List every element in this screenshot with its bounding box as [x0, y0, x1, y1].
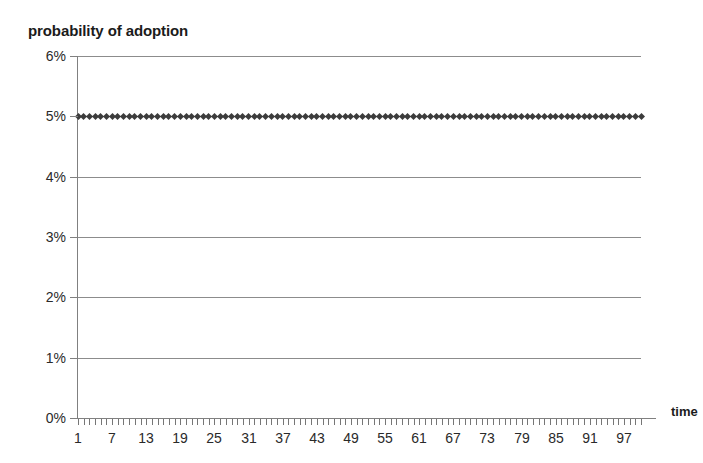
x-axis-tick — [379, 419, 380, 425]
y-axis-label-2%: 2% — [26, 290, 66, 304]
x-axis-tick — [618, 419, 619, 425]
x-axis-tick — [567, 419, 568, 425]
x-axis-tick — [232, 419, 233, 425]
x-axis-tick — [106, 419, 107, 425]
x-axis-tick — [584, 419, 585, 425]
x-axis-tick — [641, 419, 642, 425]
x-axis-tick — [323, 419, 324, 425]
x-axis-tick — [493, 419, 494, 425]
x-axis-tick — [470, 419, 471, 425]
x-axis-tick — [465, 419, 466, 425]
x-axis-tick — [112, 419, 113, 425]
x-axis-tick — [220, 419, 221, 425]
x-axis-tick — [305, 419, 306, 425]
x-axis-title: time — [671, 404, 698, 419]
y-axis-tick-5% — [70, 116, 78, 117]
y-axis-tick-6% — [70, 56, 78, 57]
x-axis-tick — [596, 419, 597, 425]
x-axis-tick — [431, 419, 432, 425]
plot-area — [78, 56, 641, 418]
x-axis-tick — [499, 419, 500, 425]
x-axis-tick — [510, 419, 511, 425]
x-axis-tick — [317, 419, 318, 425]
x-axis-tick — [237, 419, 238, 425]
x-axis-tick — [396, 419, 397, 425]
x-axis-tick — [271, 419, 272, 425]
x-axis-tick — [249, 419, 250, 425]
x-axis-tick — [453, 419, 454, 425]
x-axis-tick — [482, 419, 483, 425]
x-axis-tick — [556, 419, 557, 425]
x-axis-tick — [635, 419, 636, 425]
x-axis-tick — [129, 419, 130, 425]
y-axis-tick-4% — [70, 177, 78, 178]
x-axis-tick — [476, 419, 477, 425]
x-axis-tick — [277, 419, 278, 425]
x-axis-ticks — [78, 419, 656, 426]
x-axis-tick — [78, 419, 79, 425]
x-axis-label-49: 49 — [334, 430, 368, 446]
x-axis-tick — [442, 419, 443, 425]
x-axis-tick — [186, 419, 187, 425]
data-series-layer — [78, 56, 641, 418]
y-axis-label-4%: 4% — [26, 170, 66, 184]
x-axis-tick-labels: 17131925313743495561677379859197 — [0, 430, 703, 452]
x-axis-tick — [84, 419, 85, 425]
x-axis-tick — [539, 419, 540, 425]
x-axis-tick — [522, 419, 523, 425]
x-axis-tick — [527, 419, 528, 425]
chart-container: probability of adoption 0%1%2%3%4%5%6% 1… — [0, 0, 703, 463]
x-axis-tick — [505, 419, 506, 425]
x-axis-tick — [118, 419, 119, 425]
x-axis-tick — [357, 419, 358, 425]
x-axis-tick — [351, 419, 352, 425]
x-axis-tick — [192, 419, 193, 425]
x-axis-tick — [254, 419, 255, 425]
x-axis-tick — [146, 419, 147, 425]
x-axis-label-37: 37 — [266, 430, 300, 446]
x-axis-label-25: 25 — [197, 430, 231, 446]
x-axis-tick — [408, 419, 409, 425]
x-axis-tick — [197, 419, 198, 425]
x-axis-tick — [288, 419, 289, 425]
y-axis-tick-2% — [70, 297, 78, 298]
x-axis-tick — [578, 419, 579, 425]
x-axis-tick — [601, 419, 602, 425]
y-axis-label-1%: 1% — [26, 351, 66, 365]
x-axis-tick — [328, 419, 329, 425]
x-axis-tick — [573, 419, 574, 425]
y-axis-tick-3% — [70, 237, 78, 238]
x-axis-tick — [448, 419, 449, 425]
x-axis-tick — [101, 419, 102, 425]
x-axis-tick — [362, 419, 363, 425]
x-axis-tick — [158, 419, 159, 425]
x-axis-tick — [419, 419, 420, 425]
x-axis-tick — [516, 419, 517, 425]
x-axis-label-55: 55 — [368, 430, 402, 446]
x-axis-tick — [135, 419, 136, 425]
x-axis-label-61: 61 — [402, 430, 436, 446]
x-axis-label-67: 67 — [436, 430, 470, 446]
x-axis-tick — [89, 419, 90, 425]
x-axis-tick — [152, 419, 153, 425]
x-axis-tick — [391, 419, 392, 425]
x-axis-tick — [607, 419, 608, 425]
x-axis-tick — [368, 419, 369, 425]
x-axis-tick — [402, 419, 403, 425]
x-axis-tick — [561, 419, 562, 425]
x-axis-tick — [169, 419, 170, 425]
x-axis-tick — [425, 419, 426, 425]
x-axis-tick — [283, 419, 284, 425]
x-axis-tick — [95, 419, 96, 425]
x-axis-tick — [436, 419, 437, 425]
x-axis-tick — [123, 419, 124, 425]
x-axis-tick — [294, 419, 295, 425]
x-axis-tick — [385, 419, 386, 425]
x-axis-tick — [340, 419, 341, 425]
y-axis-label-3%: 3% — [26, 230, 66, 244]
x-axis-tick — [487, 419, 488, 425]
x-axis-tick — [141, 419, 142, 425]
x-axis-tick — [209, 419, 210, 425]
x-axis-label-43: 43 — [300, 430, 334, 446]
x-axis-tick — [266, 419, 267, 425]
